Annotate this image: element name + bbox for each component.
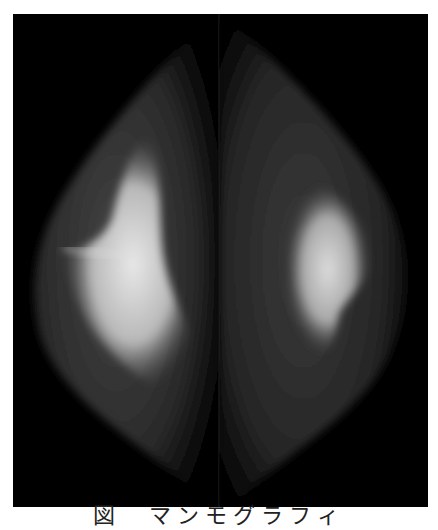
right-breast-panel — [219, 14, 428, 507]
left-breast-tissue — [13, 14, 218, 507]
left-breast-panel — [13, 14, 218, 507]
right-breast-tissue — [219, 14, 428, 507]
figure-caption: 図 マンモグラフィ — [0, 502, 438, 530]
mammogram-image — [13, 14, 428, 507]
